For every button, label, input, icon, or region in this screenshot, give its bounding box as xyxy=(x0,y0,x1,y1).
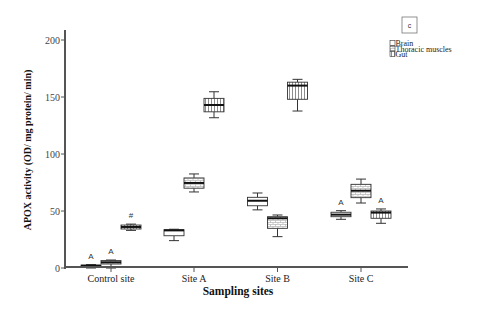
box-series-group: AAA#A xyxy=(81,79,391,268)
box-thoracic-muscles-4 xyxy=(351,179,371,203)
box-brain-1: A xyxy=(81,252,101,268)
panel-label: c xyxy=(402,17,417,33)
box-thoracic-muscles-2 xyxy=(184,174,204,192)
y-tick-label: 0 xyxy=(55,263,60,274)
legend-swatch-gut xyxy=(390,52,395,57)
x-axis: Control siteSite ASite BSite C xyxy=(65,267,408,284)
apox-boxplot-chart: AAA#A 050100150200 Control siteSite ASit… xyxy=(0,0,480,315)
x-category-label: Site A xyxy=(182,273,208,284)
x-axis-title: Sampling sites xyxy=(203,285,274,298)
y-axis: 050100150200 xyxy=(45,30,65,274)
y-tick-label: 100 xyxy=(45,149,60,160)
significance-annotation: A xyxy=(378,196,384,205)
significance-annotation: A xyxy=(88,252,94,261)
x-category-label: Site C xyxy=(349,273,374,284)
legend: Brain Thoracic muscles Gut xyxy=(390,39,452,59)
box-gut-4: A xyxy=(371,196,391,223)
y-tick-label: 50 xyxy=(50,206,60,217)
box-thoracic-muscles-3 xyxy=(268,215,288,237)
svg-text:c: c xyxy=(408,22,412,29)
box-gut-2 xyxy=(204,92,224,118)
x-category-label: Control site xyxy=(88,273,136,284)
box-thoracic-muscles-1: A xyxy=(101,247,121,268)
y-tick-label: 150 xyxy=(45,92,60,103)
x-category-label: Site B xyxy=(265,273,290,284)
legend-item-gut: Gut xyxy=(390,50,408,59)
box-brain-4: A xyxy=(331,198,351,220)
y-tick-label: 200 xyxy=(45,35,60,46)
box-gut-3 xyxy=(288,79,308,111)
box-gut-1: # xyxy=(121,211,141,230)
significance-annotation: A xyxy=(108,247,114,256)
svg-text:Gut: Gut xyxy=(396,50,409,59)
legend-swatch-brain xyxy=(390,41,395,46)
box-brain-2 xyxy=(164,229,184,240)
legend-swatch-thoracic-muscles xyxy=(390,46,395,51)
y-axis-title: APOX activity (OD/ mg protein/ min) xyxy=(22,70,34,231)
significance-annotation: A xyxy=(338,198,344,207)
significance-annotation: # xyxy=(129,211,134,220)
box-brain-3 xyxy=(248,193,268,210)
